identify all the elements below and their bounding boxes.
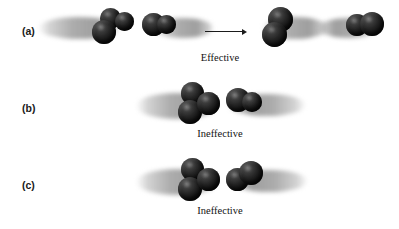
atom	[92, 20, 116, 44]
atom	[197, 92, 220, 115]
atom	[197, 168, 220, 191]
molecule-triatomic-b	[178, 82, 224, 126]
molecule-diatomic-reactant-a	[142, 11, 180, 41]
collision-row-a: (a) Ef	[0, 0, 399, 76]
reaction-arrow	[205, 31, 247, 37]
collision-row-c: (c) Ineffective	[0, 153, 399, 229]
caption-b: Ineffective	[166, 128, 274, 139]
atom	[239, 161, 263, 185]
row-label-c: (c)	[22, 179, 35, 191]
molecule-diatomic-b	[226, 87, 266, 119]
atom	[115, 12, 134, 31]
collision-row-b: (b) Ineffective	[0, 76, 399, 153]
row-label-b: (b)	[22, 102, 35, 114]
arrow-line	[205, 31, 243, 32]
arrow-head-icon	[242, 29, 247, 35]
molecule-triatomic-reactant-a	[88, 8, 136, 48]
caption-a: Effective	[170, 52, 270, 63]
atom	[360, 12, 384, 36]
figure-canvas: (a) Ef	[0, 0, 399, 229]
caption-c: Ineffective	[166, 205, 274, 216]
molecule-diatomic-product-right-a	[346, 12, 386, 42]
atom	[242, 92, 262, 112]
molecule-diatomic-c	[226, 161, 266, 197]
atom	[262, 22, 287, 47]
atom	[157, 15, 176, 34]
molecule-triatomic-c	[178, 158, 224, 202]
row-label-a: (a)	[22, 25, 35, 37]
molecule-diatomic-product-left-a	[262, 7, 296, 49]
